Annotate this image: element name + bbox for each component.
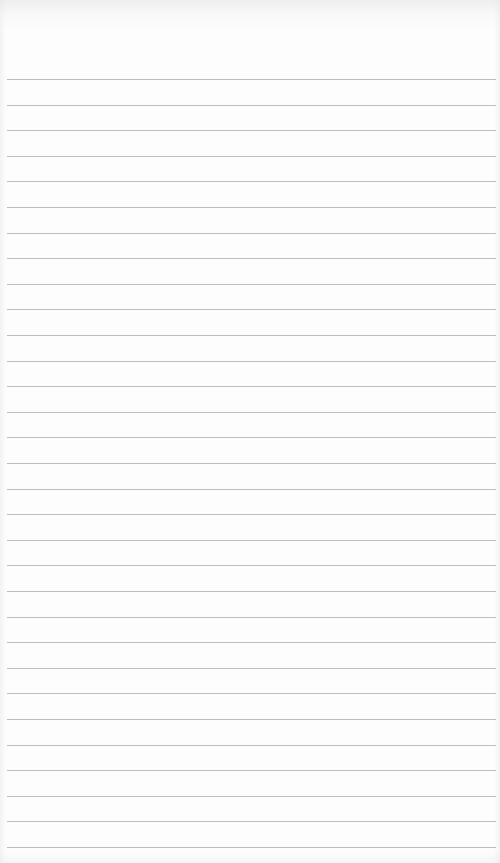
lined-paper-sheet	[0, 0, 500, 863]
ruled-line	[7, 79, 496, 80]
ruled-line	[7, 284, 496, 285]
ruled-line	[7, 309, 496, 310]
ruled-line	[7, 565, 496, 566]
ruled-line	[7, 745, 496, 746]
ruled-line	[7, 540, 496, 541]
ruled-line	[7, 105, 496, 106]
ruled-line	[7, 181, 496, 182]
ruled-line	[7, 361, 496, 362]
ruled-line	[7, 156, 496, 157]
ruled-line	[7, 719, 496, 720]
ruled-line	[7, 463, 496, 464]
ruled-line	[7, 693, 496, 694]
ruled-line	[7, 796, 496, 797]
ruled-line	[7, 642, 496, 643]
ruled-line	[7, 335, 496, 336]
ruled-line	[7, 821, 496, 822]
ruled-line	[7, 847, 496, 848]
ruled-line	[7, 412, 496, 413]
ruled-line	[7, 258, 496, 259]
ruled-lines	[0, 0, 500, 863]
ruled-line	[7, 591, 496, 592]
ruled-line	[7, 489, 496, 490]
ruled-line	[7, 617, 496, 618]
ruled-line	[7, 437, 496, 438]
ruled-line	[7, 207, 496, 208]
ruled-line	[7, 130, 496, 131]
ruled-line	[7, 233, 496, 234]
ruled-line	[7, 386, 496, 387]
ruled-line	[7, 514, 496, 515]
ruled-line	[7, 668, 496, 669]
ruled-line	[7, 770, 496, 771]
